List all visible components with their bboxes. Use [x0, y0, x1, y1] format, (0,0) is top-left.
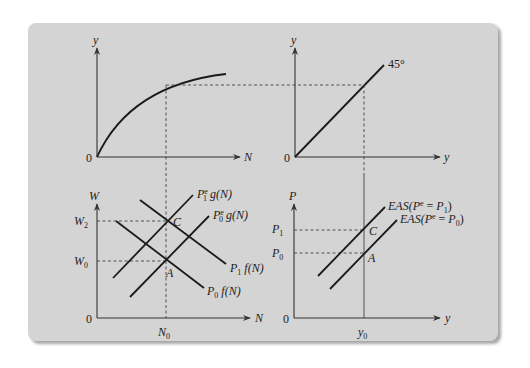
y0-tick-label: y0 [357, 325, 367, 341]
origin-label: 0 [86, 151, 92, 165]
labor-market-panel: W N 0 W2 W0 N0 Pe1 g(N) Pe0 g(N) P1 f(N)… [74, 187, 264, 341]
p1-tick-label: P1 [271, 222, 283, 238]
p1g-label: Pe1 g(N) [196, 187, 232, 203]
p0f-labor-demand [116, 221, 204, 288]
p1f-label: P1 f(N) [229, 261, 264, 277]
p0f-label: P0 f(N) [206, 284, 241, 300]
point-c-label: C [173, 215, 182, 229]
economics-diagram: y N 0 y y 0 45° W N 0 W2 W0 N0 Pe1 g(N) … [0, 0, 530, 368]
eas-panel: P y 0 P1 P0 y0 EAS(Pe = P1) EAS(Pe = P0)… [271, 173, 464, 341]
origin-label: 0 [86, 312, 92, 326]
forty-five-label: 45° [388, 57, 405, 71]
p1g-labor-supply [113, 195, 193, 278]
point-a-label: A [165, 266, 174, 280]
p0-tick-label: P0 [271, 246, 283, 262]
w2-tick-label: W2 [74, 214, 88, 230]
n0-tick-label: N0 [157, 325, 170, 341]
p0g-label: Pe0 g(N) [212, 208, 248, 224]
y-axis-label: y [290, 33, 297, 47]
origin-label: 0 [284, 151, 290, 165]
forty-five-line [295, 65, 384, 157]
w-axis-label: W [89, 189, 100, 203]
forty-five-degree-panel: y y 0 45° [284, 33, 450, 173]
n-axis-label: N [243, 150, 253, 164]
n-axis-label: N [254, 311, 264, 325]
x-axis-label: y [443, 150, 450, 164]
production-curve [97, 74, 226, 157]
w0-tick-label: W0 [74, 254, 88, 270]
eas-p0-label: EAS(Pe = P0) [399, 212, 464, 228]
point-a-label: A [367, 251, 376, 265]
y-axis-label: y [92, 33, 99, 47]
y-axis-label: y [444, 311, 451, 325]
production-function-panel: y N 0 [86, 33, 364, 318]
p0g-labor-supply [130, 216, 209, 297]
p-axis-label: P [288, 189, 297, 203]
origin-label: 0 [283, 312, 289, 326]
point-c-label: C [369, 224, 378, 238]
